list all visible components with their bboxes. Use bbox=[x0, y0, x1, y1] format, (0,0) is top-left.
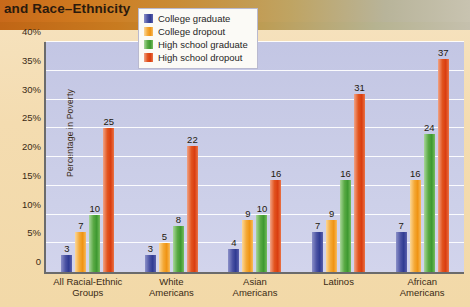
bar-value-label: 4 bbox=[231, 237, 236, 248]
legend-swatch-icon bbox=[144, 53, 153, 62]
bar: 31 bbox=[354, 94, 365, 272]
legend-item: College dropout bbox=[144, 25, 248, 38]
x-axis-tick-label: Latinos bbox=[297, 276, 381, 287]
legend-item-label: High school dropout bbox=[158, 52, 243, 63]
legend-item-label: College graduate bbox=[158, 13, 230, 24]
bar-group: 791631 bbox=[297, 42, 381, 272]
bar: 3 bbox=[145, 255, 156, 272]
legend-swatch-icon bbox=[144, 40, 153, 49]
bar-value-label: 9 bbox=[329, 208, 334, 219]
bar: 4 bbox=[228, 249, 239, 272]
bar: 7 bbox=[396, 232, 407, 272]
bar: 37 bbox=[438, 59, 449, 272]
bar-value-label: 16 bbox=[410, 168, 421, 179]
y-axis-tick-label: 20% bbox=[9, 141, 41, 152]
page-title: and Race–Ethnicity bbox=[4, 1, 130, 16]
y-axis-tick-label: 0 bbox=[9, 256, 41, 267]
bar-value-label: 7 bbox=[78, 220, 83, 231]
x-axis-label-line: Asian bbox=[213, 276, 297, 287]
legend-item: High school dropout bbox=[144, 51, 248, 64]
legend-item-label: College dropout bbox=[158, 26, 225, 37]
bar: 16 bbox=[410, 180, 421, 272]
bar: 8 bbox=[173, 226, 184, 272]
bar: 10 bbox=[89, 215, 100, 273]
y-axis-tick-label: 40% bbox=[9, 26, 41, 37]
x-axis-label-line: African bbox=[380, 276, 464, 287]
bar-value-label: 3 bbox=[64, 243, 69, 254]
bar-group: 7162437 bbox=[380, 42, 464, 272]
figure-root: and Race–Ethnicity Percentage in Poverty… bbox=[0, 0, 470, 307]
y-axis-tick-label: 30% bbox=[9, 83, 41, 94]
y-axis-tick-label: 5% bbox=[9, 227, 41, 238]
bar: 22 bbox=[187, 146, 198, 273]
bar: 9 bbox=[242, 220, 253, 272]
bar-value-label: 10 bbox=[257, 203, 268, 214]
bar: 16 bbox=[270, 180, 281, 272]
bar-value-label: 5 bbox=[162, 231, 167, 242]
bar-value-label: 25 bbox=[104, 116, 115, 127]
bar: 25 bbox=[103, 128, 114, 272]
legend-item-label: High school graduate bbox=[158, 39, 248, 50]
x-axis-label-line: Groups bbox=[46, 287, 130, 298]
x-axis-label-line: Americans bbox=[380, 287, 464, 298]
x-axis-tick-label: All Racial-EthnicGroups bbox=[46, 276, 130, 298]
x-axis-label-line: Americans bbox=[130, 287, 214, 298]
x-axis-label-line: Americans bbox=[213, 287, 297, 298]
bar: 7 bbox=[75, 232, 86, 272]
bar-group: 35822 bbox=[130, 42, 214, 272]
bar-value-label: 9 bbox=[245, 208, 250, 219]
bar-value-label: 10 bbox=[90, 203, 101, 214]
bar-value-label: 37 bbox=[438, 47, 449, 58]
bar: 7 bbox=[312, 232, 323, 272]
bar-value-label: 8 bbox=[176, 214, 181, 225]
y-axis-tick-label: 15% bbox=[9, 169, 41, 180]
bar-value-label: 16 bbox=[271, 168, 282, 179]
bar-group: 371025 bbox=[46, 42, 130, 272]
chart-legend: College graduateCollege dropoutHigh scho… bbox=[138, 8, 258, 69]
bar-value-label: 3 bbox=[148, 243, 153, 254]
bar-value-label: 31 bbox=[354, 82, 365, 93]
x-axis-tick-label: AfricanAmericans bbox=[380, 276, 464, 298]
x-axis-label-line: Latinos bbox=[297, 276, 381, 287]
bar: 24 bbox=[424, 134, 435, 272]
bar-value-label: 16 bbox=[340, 168, 351, 179]
legend-item: High school graduate bbox=[144, 38, 248, 51]
bar: 5 bbox=[159, 243, 170, 272]
x-axis-label-line: White bbox=[130, 276, 214, 287]
plot-area: Percentage in Poverty 05%10%15%20%25%30%… bbox=[44, 42, 464, 274]
bar: 9 bbox=[326, 220, 337, 272]
bar-value-label: 7 bbox=[399, 220, 404, 231]
y-axis-tick-label: 10% bbox=[9, 198, 41, 209]
bar: 3 bbox=[61, 255, 72, 272]
legend-swatch-icon bbox=[144, 27, 153, 36]
legend-item: College graduate bbox=[144, 12, 248, 25]
y-axis-tick-label: 35% bbox=[9, 54, 41, 65]
x-axis-tick-label: WhiteAmericans bbox=[130, 276, 214, 298]
bar-value-label: 7 bbox=[315, 220, 320, 231]
bar-value-label: 24 bbox=[424, 122, 435, 133]
x-axis-label-line: All Racial-Ethnic bbox=[46, 276, 130, 287]
bar-value-label: 22 bbox=[187, 134, 198, 145]
legend-swatch-icon bbox=[144, 14, 153, 23]
bar-group: 491016 bbox=[213, 42, 297, 272]
x-axis-tick-label: AsianAmericans bbox=[213, 276, 297, 298]
y-axis-tick-label: 25% bbox=[9, 112, 41, 123]
bar: 10 bbox=[256, 215, 267, 273]
bar: 16 bbox=[340, 180, 351, 272]
